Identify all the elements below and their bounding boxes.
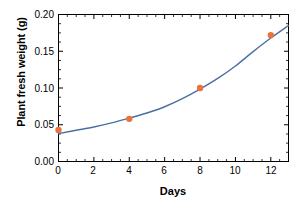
chart-figure: Plant fresh weight (g) 0.20 0.15 0.10 0.…	[0, 0, 301, 208]
data-point-marker	[268, 32, 274, 38]
axes-frame	[59, 15, 289, 162]
data-point-markers	[55, 32, 274, 133]
fitted-curve-line	[59, 26, 289, 134]
data-point-marker	[126, 116, 132, 122]
data-point-marker	[55, 127, 61, 133]
plot-canvas	[0, 0, 301, 208]
data-point-marker	[197, 85, 203, 91]
major-tick-marks	[59, 15, 289, 162]
minor-tick-marks	[59, 15, 289, 162]
axis-frame-rect	[59, 15, 289, 162]
